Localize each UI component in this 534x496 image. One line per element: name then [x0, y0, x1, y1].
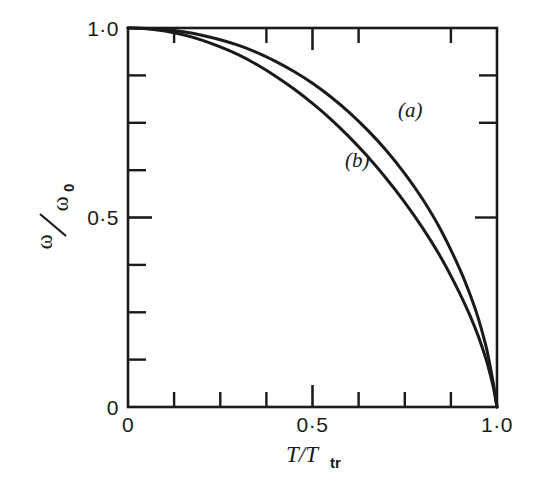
y-tick-label-bottom: 0	[107, 396, 119, 419]
y-axis-title-numerator: ω	[32, 234, 57, 249]
y-tick-label-top: 1·0	[87, 17, 119, 40]
x-tick-label-left: 0	[122, 413, 134, 436]
x-tick-label-right: 1·0	[481, 413, 513, 436]
y-axis-title-denominator-sub: 0	[60, 184, 77, 192]
figure-container: 1·0 0·5 0 0 0·5 1·0 T/T tr ω ω 0 (a) (b)	[0, 0, 534, 496]
x-axis-title-main: T/T	[286, 442, 320, 467]
x-axis-title-sub: tr	[330, 454, 341, 471]
y-tick-label-mid: 0·5	[87, 206, 119, 229]
y-axis-title-denominator: ω	[48, 196, 73, 211]
chart-svg: 1·0 0·5 0 0 0·5 1·0 T/T tr ω ω 0 (a) (b)	[0, 0, 534, 496]
curve-label-b: (b)	[345, 148, 370, 172]
chart-background	[0, 0, 534, 496]
curve-label-a: (a)	[398, 98, 423, 122]
x-tick-label-mid: 0·5	[297, 413, 329, 436]
